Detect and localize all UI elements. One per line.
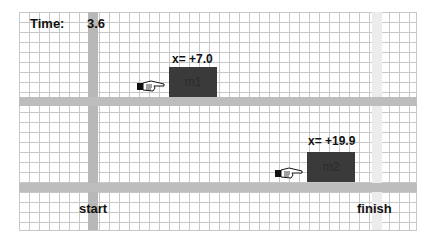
finish-label: finish: [357, 201, 392, 216]
m2-position-label: x= +19.9: [308, 134, 355, 148]
pointing-hand-icon: [275, 166, 305, 180]
mass-m2[interactable]: m2: [307, 152, 355, 182]
track-2: [19, 183, 417, 192]
time-label: Time:: [30, 16, 64, 31]
mass-m1[interactable]: m1: [169, 67, 217, 97]
time-value: 3.6: [87, 16, 105, 31]
pointing-hand-icon: [137, 79, 167, 93]
start-line: [88, 12, 98, 230]
finish-line: [372, 12, 382, 230]
grid-background: [19, 12, 417, 231]
m1-position-label: x= +7.0: [172, 52, 213, 66]
track-1: [19, 97, 417, 106]
start-label: start: [79, 201, 107, 216]
